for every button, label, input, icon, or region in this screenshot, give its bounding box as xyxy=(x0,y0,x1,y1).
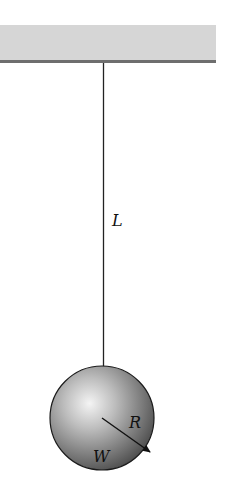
length-label: L xyxy=(111,211,123,230)
weight-label: W xyxy=(93,447,111,466)
radius-label: R xyxy=(128,413,141,432)
ceiling-block xyxy=(0,25,216,61)
ceiling xyxy=(0,25,216,63)
pendulum-diagram: L R W xyxy=(0,0,234,503)
ceiling-edge xyxy=(0,60,216,63)
